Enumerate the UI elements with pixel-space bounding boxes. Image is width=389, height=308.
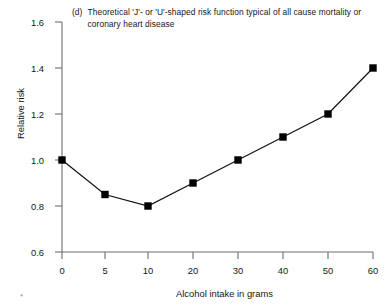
- data-point-marker: [144, 202, 151, 209]
- x-axis: [62, 252, 373, 259]
- y-axis: [55, 22, 62, 252]
- plot-area: [0, 0, 389, 308]
- data-point-marker: [324, 110, 331, 117]
- data-point-marker: [234, 156, 241, 163]
- data-point-marker: [58, 156, 65, 163]
- data-point-marker: [189, 179, 196, 186]
- risk-curve-line: [62, 68, 373, 206]
- chart-figure: (d) Theoretical 'J'- or 'U'-shaped risk …: [0, 0, 389, 308]
- data-point-marker: [101, 191, 108, 198]
- data-point-marker: [369, 64, 376, 71]
- data-point-marker: [279, 133, 286, 140]
- risk-curve-markers: [58, 64, 376, 209]
